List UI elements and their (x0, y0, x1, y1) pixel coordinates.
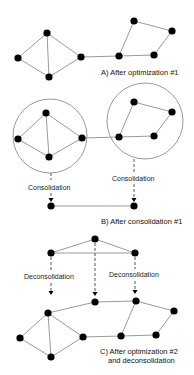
edge (121, 335, 156, 336)
node (91, 235, 98, 242)
node (42, 109, 49, 116)
edge (49, 138, 82, 157)
edge (134, 102, 172, 112)
edge (48, 302, 95, 313)
deconsolidation-label-left: Deconsolidation (24, 273, 74, 280)
node (130, 98, 137, 105)
node (117, 332, 124, 339)
node (45, 73, 52, 80)
caption-b: B) After consolidation #1 (101, 217, 182, 226)
edge (95, 301, 136, 302)
node (14, 54, 21, 61)
consolidated-node (47, 202, 54, 209)
panel-a: A) After optimization #1 (14, 17, 178, 80)
node (45, 153, 52, 160)
cluster-circle-left (13, 99, 87, 173)
edge (119, 55, 154, 56)
panel-b: Consolidation Consolidation B) After con… (13, 83, 183, 226)
consolidation-label-left: Consolidation (28, 184, 71, 191)
edge (48, 313, 83, 337)
edge (134, 21, 172, 31)
edge (18, 33, 47, 58)
node (16, 334, 23, 341)
edge (119, 102, 134, 137)
node (77, 53, 84, 60)
edge (20, 338, 51, 357)
arrow-head-icon (93, 292, 98, 296)
node (168, 27, 175, 34)
edge (46, 113, 82, 138)
node (152, 331, 159, 338)
arrow-head-icon (133, 290, 138, 294)
edge (18, 113, 46, 139)
node (115, 133, 122, 140)
node (170, 307, 177, 314)
edge (47, 33, 81, 57)
node (43, 29, 50, 36)
arrow-head-icon (49, 198, 54, 202)
consolidation-label-right: Consolidation (112, 175, 155, 182)
edge (136, 301, 174, 311)
edge (83, 336, 121, 337)
panel-c: Deconsolidation Deconsolidation C) After… (16, 235, 178, 365)
node (91, 298, 98, 305)
caption-c-line2: and deconsolidation (108, 356, 175, 365)
edge (82, 137, 119, 138)
edge (18, 58, 49, 77)
edge (18, 139, 49, 157)
node (132, 297, 139, 304)
edge (119, 136, 154, 137)
node (150, 51, 157, 58)
node (115, 52, 122, 59)
deconsolidation-label-right: Deconsolidation (109, 271, 159, 278)
edge (154, 112, 172, 136)
node (47, 249, 54, 256)
edge (121, 301, 136, 336)
caption-a: A) After optimization #1 (101, 68, 179, 77)
node (78, 134, 85, 141)
arrow-head-icon (132, 198, 137, 202)
arrow-head-icon (49, 291, 54, 295)
edge (154, 31, 172, 55)
node (47, 353, 54, 360)
edge (20, 313, 48, 338)
consolidated-node (130, 202, 137, 209)
edge (47, 33, 49, 77)
edge (49, 57, 81, 77)
edge (46, 113, 49, 157)
edge (95, 239, 135, 253)
caption-c-line1: C) After optimization #2 (100, 347, 178, 356)
node (14, 135, 21, 142)
node (44, 309, 51, 316)
edge (48, 313, 51, 357)
node (168, 108, 175, 115)
node (131, 249, 138, 256)
cluster-circle-right (107, 83, 183, 159)
edge (51, 337, 83, 357)
edge (119, 21, 134, 56)
node (79, 333, 86, 340)
graph-consolidation-diagram: A) After optimization #1 Consolidation C… (0, 0, 194, 375)
node (130, 17, 137, 24)
edge (51, 239, 95, 253)
edge (156, 311, 174, 335)
node (150, 132, 157, 139)
edge (81, 56, 119, 57)
